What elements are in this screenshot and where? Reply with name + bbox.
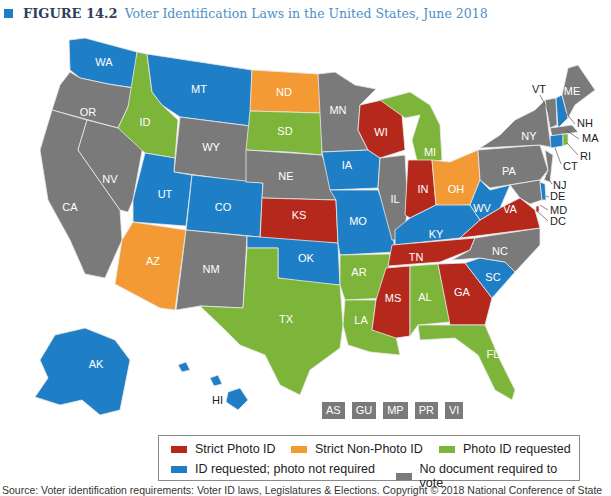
no-document-swatch-icon bbox=[396, 473, 412, 480]
label-NM: NM bbox=[202, 263, 219, 275]
label-OK: OK bbox=[298, 252, 315, 264]
source-note: Source: Voter identification requirement… bbox=[2, 484, 602, 496]
label-ID: ID bbox=[140, 116, 151, 128]
territory-PR: PR bbox=[415, 402, 438, 419]
label-SD: SD bbox=[277, 125, 292, 137]
label-VT: VT bbox=[532, 83, 546, 95]
label-WV: WV bbox=[473, 202, 491, 214]
label-MS: MS bbox=[385, 292, 402, 304]
territory-GU: GU bbox=[352, 402, 377, 419]
label-AL: AL bbox=[418, 291, 431, 303]
label-RI: RI bbox=[580, 150, 591, 162]
photo-requested-swatch-icon bbox=[439, 446, 455, 453]
state-CT[interactable] bbox=[550, 134, 563, 148]
legend-item-strict-nonphoto: Strict Non-Photo ID bbox=[291, 442, 423, 456]
label-ME: ME bbox=[564, 85, 581, 97]
label-OH: OH bbox=[448, 183, 465, 195]
label-IA: IA bbox=[342, 159, 353, 171]
label-CT: CT bbox=[563, 160, 578, 172]
state-AK[interactable] bbox=[35, 328, 130, 415]
label-NH: NH bbox=[577, 117, 593, 129]
territory-VI: VI bbox=[445, 402, 463, 419]
label-MN: MN bbox=[329, 104, 346, 116]
label-WY: WY bbox=[202, 141, 220, 153]
label-WI: WI bbox=[374, 126, 387, 138]
label-KY: KY bbox=[429, 228, 444, 240]
label-PA: PA bbox=[502, 165, 517, 177]
label-CA: CA bbox=[62, 201, 78, 213]
us-map: WA OR CA NV ID MT WY UT CO AZ NM ND SD N… bbox=[0, 0, 611, 496]
legend-item-strict-photo: Strict Photo ID bbox=[171, 442, 276, 456]
territory-MP: MP bbox=[383, 402, 408, 419]
label-VA: VA bbox=[503, 203, 518, 215]
legend-item-id-requested: ID requested; photo not required bbox=[171, 462, 375, 476]
state-FL[interactable] bbox=[418, 325, 515, 400]
label-MI: MI bbox=[424, 146, 436, 158]
label-MA: MA bbox=[582, 132, 599, 144]
legend-label: Photo ID requested bbox=[463, 442, 571, 456]
id-requested-swatch-icon bbox=[171, 466, 187, 473]
label-UT: UT bbox=[158, 188, 173, 200]
state-RI[interactable] bbox=[563, 134, 568, 146]
label-NV: NV bbox=[102, 173, 118, 185]
legend-label: Strict Photo ID bbox=[195, 442, 276, 456]
legend: Strict Photo ID Strict Non-Photo ID Phot… bbox=[158, 435, 580, 481]
label-CO: CO bbox=[215, 201, 232, 213]
legend-item-photo-requested: Photo ID requested bbox=[439, 442, 571, 456]
label-TN: TN bbox=[409, 251, 424, 263]
label-FL: FL bbox=[487, 348, 500, 360]
label-NC: NC bbox=[492, 245, 508, 257]
state-NY[interactable] bbox=[480, 100, 555, 148]
label-WA: WA bbox=[95, 56, 113, 68]
label-MT: MT bbox=[191, 83, 207, 95]
label-SC: SC bbox=[485, 271, 500, 283]
label-LA: LA bbox=[354, 314, 368, 326]
label-NE: NE bbox=[278, 170, 293, 182]
territory-AS: AS bbox=[322, 402, 345, 419]
label-KS: KS bbox=[292, 209, 307, 221]
label-NY: NY bbox=[521, 130, 537, 142]
legend-label: Strict Non-Photo ID bbox=[315, 442, 423, 456]
label-GA: GA bbox=[454, 286, 471, 298]
label-OR: OR bbox=[80, 106, 97, 118]
label-TX: TX bbox=[279, 313, 294, 325]
territories: AS GU MP PR VI bbox=[322, 402, 463, 419]
legend-label: ID requested; photo not required bbox=[195, 462, 375, 476]
label-AR: AR bbox=[351, 266, 366, 278]
label-MO: MO bbox=[349, 215, 367, 227]
strict-photo-swatch-icon bbox=[171, 446, 187, 453]
label-ND: ND bbox=[276, 86, 292, 98]
label-IL: IL bbox=[390, 193, 399, 205]
label-IN: IN bbox=[418, 183, 429, 195]
label-AZ: AZ bbox=[146, 255, 160, 267]
label-HI: HI bbox=[212, 394, 223, 406]
label-DC: DC bbox=[550, 215, 566, 227]
strict-nonphoto-swatch-icon bbox=[291, 446, 307, 453]
state-DC[interactable] bbox=[536, 206, 539, 212]
label-DE: DE bbox=[550, 190, 565, 202]
label-AK: AK bbox=[89, 358, 104, 370]
